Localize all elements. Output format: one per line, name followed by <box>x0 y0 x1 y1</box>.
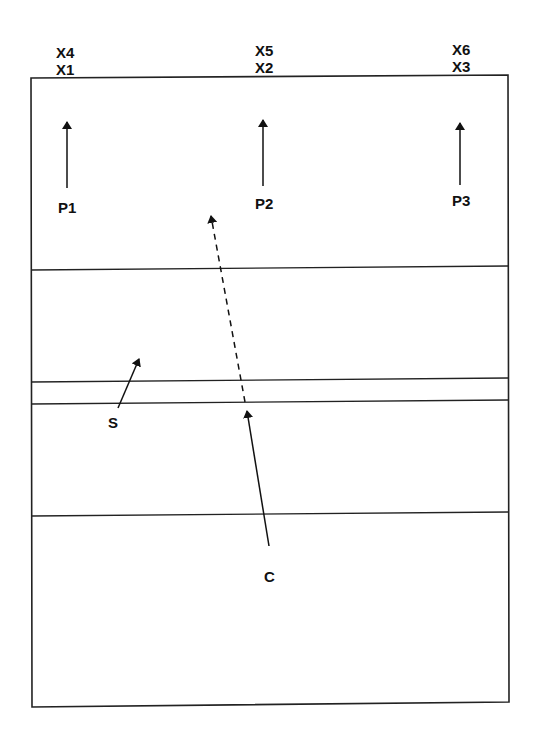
c-arrow-icon <box>247 411 269 546</box>
label-x6: X6 <box>452 41 470 58</box>
label-x5: X5 <box>255 42 273 59</box>
label-x1: X1 <box>56 61 74 78</box>
label-c: C <box>264 568 275 585</box>
court-line-net-bottom <box>31 400 508 404</box>
court-outline <box>31 75 509 707</box>
label-s: S <box>108 414 118 431</box>
court-line-net-top <box>31 378 508 382</box>
court-line-attack <box>31 266 508 270</box>
label-x2: X2 <box>255 59 273 76</box>
court-diagram: X4 X1 X5 X2 X6 X3 P1 P2 P3 S C <box>0 0 533 742</box>
s-arrow-icon <box>118 359 139 408</box>
label-x4: X4 <box>56 44 75 61</box>
label-p1: P1 <box>58 199 76 216</box>
label-x3: X3 <box>452 58 470 75</box>
label-p3: P3 <box>452 192 470 209</box>
c-dashed-path-icon <box>211 216 245 402</box>
label-p2: P2 <box>255 195 273 212</box>
court-line-attack-far <box>32 512 508 516</box>
